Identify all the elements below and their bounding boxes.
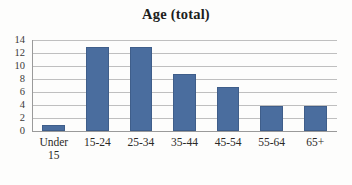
x-axis-tick-label: 35-44 <box>163 136 207 149</box>
y-axis-tick-label: 0 <box>20 126 25 137</box>
x-axis: Under 1515-2425-3435-4445-5455-6465+ <box>32 136 337 184</box>
bar <box>304 106 327 131</box>
bar-chart: Age (total) 02468101214 Under 1515-2425-… <box>0 0 352 185</box>
x-axis-tick-label: 65+ <box>293 136 337 149</box>
bar <box>260 106 283 131</box>
bar <box>173 74 196 131</box>
y-axis-tick-label: 14 <box>15 35 26 46</box>
x-axis-tick-label: 25-34 <box>119 136 163 149</box>
x-axis-tick-label: 15-24 <box>76 136 120 149</box>
bar <box>217 87 240 131</box>
y-axis-tick-label: 10 <box>15 61 26 72</box>
bar <box>86 47 109 131</box>
bar <box>42 125 65 132</box>
y-axis-tick-label: 2 <box>20 113 25 124</box>
x-axis-tick-label: Under 15 <box>32 136 76 162</box>
y-axis: 02468101214 <box>0 40 29 132</box>
bar <box>130 47 153 131</box>
y-axis-tick-label: 12 <box>15 48 26 59</box>
y-axis-tick-label: 6 <box>20 87 25 98</box>
plot-area <box>32 40 337 132</box>
x-axis-tick-label: 45-54 <box>206 136 250 149</box>
y-axis-tick-label: 8 <box>20 74 25 85</box>
x-axis-tick-label: 55-64 <box>250 136 294 149</box>
bars-group <box>32 40 337 132</box>
y-axis-tick-label: 4 <box>20 100 25 111</box>
chart-title: Age (total) <box>0 6 352 23</box>
